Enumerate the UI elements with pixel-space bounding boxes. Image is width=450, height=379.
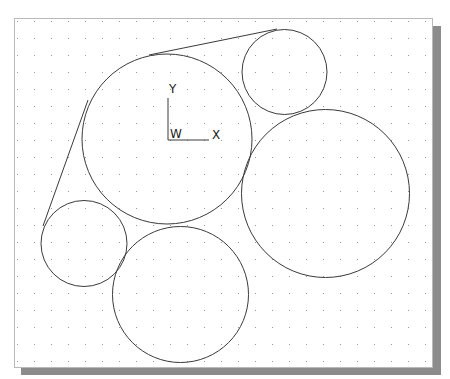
grid-dot [289,310,290,311]
grid-dot [17,123,18,124]
grid-dot [68,106,69,107]
grid-dot [289,174,290,175]
grid-dot [272,55,273,56]
right-large-circle[interactable] [242,110,410,278]
grid-dot [153,242,154,243]
grid-dot [238,89,239,90]
grid-dot [374,55,375,56]
grid-dot [51,310,52,311]
grid-dot [323,191,324,192]
grid-dot [34,157,35,158]
grid-dot [51,55,52,56]
bottom-circle[interactable] [113,227,249,363]
grid-dot [340,259,341,260]
grid-dot [306,123,307,124]
top-right-small-circle[interactable] [242,30,327,115]
grid-dot [136,21,137,22]
grid-dot [85,55,86,56]
grid-dot [357,242,358,243]
grid-dot [153,310,154,311]
grid-dot [391,89,392,90]
grid-dot [374,242,375,243]
grid-dot [323,259,324,260]
left-small-circle[interactable] [41,201,127,287]
grid-dot [408,225,409,226]
drawing-canvas[interactable]: Y X W [0,0,450,379]
grid-dot [85,327,86,328]
grid-dot [238,72,239,73]
grid-dot [51,208,52,209]
grid-dot [34,89,35,90]
grid-dot [425,89,426,90]
grid-dot [238,276,239,277]
grid-dot [255,293,256,294]
grid-dot [102,174,103,175]
grid-dot [204,259,205,260]
grid-dot [34,140,35,141]
grid-dot [340,174,341,175]
grid-dot [51,191,52,192]
grid-dot [323,242,324,243]
grid-dot [323,140,324,141]
grid-dot [357,208,358,209]
grid-dot [272,293,273,294]
large-circle[interactable] [82,54,252,224]
grid-dot [408,157,409,158]
grid-dot [221,140,222,141]
grid-dot [238,344,239,345]
grid-dot [340,89,341,90]
left-tangent-line[interactable] [43,100,88,226]
grid-dot [170,72,171,73]
grid-dot [51,344,52,345]
grid-dot [221,276,222,277]
grid-dot [51,259,52,260]
grid-dot [85,140,86,141]
grid-dot [238,123,239,124]
grid-dot [68,157,69,158]
grid-dot [306,174,307,175]
grid-dot [102,208,103,209]
grid-dot [408,55,409,56]
grid-dot [306,89,307,90]
grid-dot [289,361,290,362]
grid-dot [425,259,426,260]
grid-dot [323,38,324,39]
grid-dot [34,276,35,277]
grid-dot [357,55,358,56]
grid-dot [221,21,222,22]
grid-dot [238,191,239,192]
grid-dot [391,38,392,39]
grid-dot [289,106,290,107]
drawing-area[interactable]: Y X W [0,0,450,379]
grid-dot [408,174,409,175]
grid-dot [34,208,35,209]
grid-dot [221,361,222,362]
grid-dot [306,38,307,39]
grid-dot [272,174,273,175]
grid-dot [136,106,137,107]
grid-dot [374,259,375,260]
grid-dot [357,38,358,39]
grid-dot [289,344,290,345]
grid-dot [187,72,188,73]
grid-dot [136,208,137,209]
grid-dot [289,276,290,277]
grid-dot [102,344,103,345]
grid-dot [391,327,392,328]
grid-dot [85,276,86,277]
grid-dot [391,157,392,158]
grid-dot [340,327,341,328]
grid-dot [68,344,69,345]
grid-dot [170,327,171,328]
grid-dot [221,191,222,192]
grid-dot [323,361,324,362]
grid-dot [408,21,409,22]
grid-dot [170,106,171,107]
top-tangent-line[interactable] [149,29,277,55]
grid-dot [255,276,256,277]
grid-dot [323,157,324,158]
grid-dot [119,55,120,56]
grid-dot [153,327,154,328]
grid-dot [357,225,358,226]
grid-dot [119,225,120,226]
